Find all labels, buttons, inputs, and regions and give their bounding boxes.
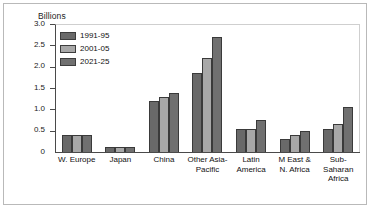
bar-group [142, 24, 186, 152]
chart-screenshot: Billions 3.02.52.01.51.00.50 1991-952001… [0, 0, 371, 209]
bar [149, 101, 159, 152]
bar [290, 135, 300, 152]
x-axis-label: M East & N. Africa [273, 155, 317, 174]
bar [236, 129, 246, 152]
bar [256, 120, 266, 152]
bar [115, 147, 125, 152]
bar-group [273, 24, 317, 152]
x-axis-label: Japan [99, 155, 143, 165]
x-axis-label: Latin America [229, 155, 273, 174]
bar [72, 135, 82, 152]
x-axis-line [55, 152, 360, 153]
y-axis-tick-label: 1.5 [34, 83, 45, 92]
bar [169, 93, 179, 152]
y-axis-tick-label: 0.5 [34, 125, 45, 134]
y-axis-tick-label: 0 [41, 147, 45, 156]
y-axis-tick-label: 2.0 [34, 61, 45, 70]
bar-group [186, 24, 230, 152]
bar [300, 131, 310, 152]
bar [82, 135, 92, 152]
bar [125, 147, 135, 152]
bar [159, 97, 169, 152]
x-axis-labels: W. EuropeJapanChinaOther Asia- PacificLa… [55, 155, 360, 205]
bar [212, 37, 222, 152]
y-axis-tick-label: 3.0 [34, 19, 45, 28]
x-axis-label: China [142, 155, 186, 165]
bar-group [55, 24, 99, 152]
bar [280, 139, 290, 152]
bar-group [99, 24, 143, 152]
bars-layer [55, 24, 360, 152]
bar [202, 58, 212, 152]
bar-group [229, 24, 273, 152]
bar-group [316, 24, 360, 152]
bar [323, 129, 333, 152]
y-axis-tick-label: 1.0 [34, 104, 45, 113]
bar [192, 73, 202, 152]
bar [105, 147, 115, 152]
x-axis-label: Sub- Saharan Africa [316, 155, 360, 184]
bar [333, 124, 343, 152]
x-axis-label: Other Asia- Pacific [186, 155, 230, 174]
bar [343, 107, 353, 152]
x-axis-label: W. Europe [55, 155, 99, 165]
y-axis-tick-label: 2.5 [34, 40, 45, 49]
bar [62, 135, 72, 152]
bar [246, 129, 256, 152]
